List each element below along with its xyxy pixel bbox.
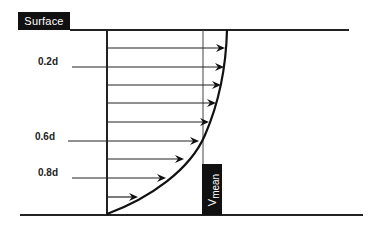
vmean-main: V (206, 198, 218, 205)
vmean-subscript: mean (210, 173, 221, 198)
velocity-profile-diagram (0, 0, 379, 226)
surface-label: Surface (18, 12, 70, 30)
vmean-text: Vmean (206, 173, 219, 205)
depth-label-0-2d: 0.2d (38, 56, 58, 68)
depth-label-0-6d: 0.6d (35, 131, 55, 143)
vmean-label: Vmean (202, 164, 222, 215)
depth-label-0-8d: 0.8d (38, 167, 58, 179)
